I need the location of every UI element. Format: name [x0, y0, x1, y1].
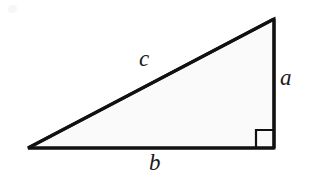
label-leg-b: b: [149, 151, 161, 174]
right-triangle-figure: c a b: [0, 0, 310, 180]
label-hypotenuse-c: c: [139, 47, 149, 70]
label-leg-a: a: [280, 66, 292, 89]
